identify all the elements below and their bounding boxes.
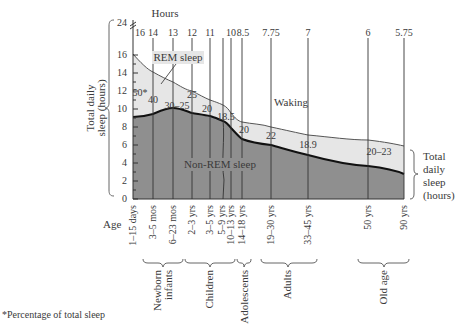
non-rem-sleep-label: Non-REM sleep: [184, 158, 256, 170]
svg-text:50 yrs: 50 yrs: [362, 205, 373, 230]
svg-text:Adults: Adults: [281, 270, 293, 299]
svg-text:10–13 yrs: 10–13 yrs: [225, 205, 236, 245]
svg-text:12: 12: [117, 85, 127, 96]
svg-text:12: 12: [187, 27, 197, 38]
svg-text:6–23 mos: 6–23 mos: [167, 205, 178, 244]
svg-text:2–3 yrs: 2–3 yrs: [186, 205, 197, 235]
svg-text:10: 10: [226, 27, 236, 38]
svg-text:Total: Total: [423, 150, 445, 162]
svg-text:0: 0: [122, 193, 127, 204]
svg-text:14: 14: [148, 27, 158, 38]
svg-text:33–45 yrs: 33–45 yrs: [302, 205, 313, 245]
svg-text:sleep: sleep: [423, 176, 446, 188]
y-tick-labels: 24 16 14 12 10 8 6 4 2 0: [117, 17, 127, 204]
svg-text:11: 11: [205, 27, 215, 38]
svg-text:4: 4: [122, 157, 127, 168]
footnote: *Percentage of total sleep: [2, 309, 105, 320]
svg-text:infants: infants: [162, 270, 174, 300]
svg-text:10: 10: [117, 103, 127, 114]
age-group-labels: Newborn infants Children Adolescents Adu…: [151, 270, 389, 324]
sleep-chart: 24 16 14 12 10 8 6 4 2 0 Total daily sle…: [0, 0, 465, 331]
svg-text:7.75: 7.75: [262, 27, 280, 38]
svg-text:25: 25: [187, 89, 197, 100]
svg-text:1–15 days: 1–15 days: [127, 205, 138, 246]
svg-text:90 yrs: 90 yrs: [398, 205, 409, 230]
svg-text:(hours): (hours): [423, 189, 455, 202]
y-axis-label-line2: sleep (hours): [95, 79, 108, 136]
svg-text:20: 20: [239, 124, 249, 135]
waking-label: Waking: [274, 96, 308, 108]
right-brace: [410, 150, 418, 199]
right-axis-label: Total daily sleep (hours): [423, 150, 455, 202]
svg-text:daily: daily: [423, 163, 445, 175]
svg-text:14–18 yrs: 14–18 yrs: [236, 205, 247, 245]
svg-text:6: 6: [366, 27, 371, 38]
svg-text:Children: Children: [203, 270, 215, 309]
svg-text:40: 40: [148, 94, 158, 105]
svg-text:22: 22: [266, 130, 276, 141]
svg-text:7: 7: [306, 27, 311, 38]
svg-text:8.5: 8.5: [237, 27, 250, 38]
age-label: Age: [103, 218, 121, 230]
svg-text:Old age: Old age: [377, 270, 389, 305]
svg-text:Adolescents: Adolescents: [238, 270, 250, 324]
total-hours-labels: 16 14 13 12 11 10 8.5 7.75 7 6 5.75: [135, 27, 413, 38]
svg-text:20–23: 20–23: [367, 146, 392, 157]
svg-text:8: 8: [122, 121, 127, 132]
svg-text:3–5 yrs: 3–5 yrs: [204, 205, 215, 235]
svg-text:16: 16: [117, 49, 127, 60]
svg-text:14: 14: [117, 67, 127, 78]
svg-text:50*: 50*: [133, 87, 148, 98]
svg-text:18.5: 18.5: [217, 111, 235, 122]
age-category-labels: 1–15 days 3–5 mos 6–23 mos 2–3 yrs 3–5 y…: [127, 205, 409, 246]
svg-text:20: 20: [202, 103, 212, 114]
group-braces: [143, 259, 409, 267]
svg-text:6: 6: [122, 139, 127, 150]
rem-sleep-label: REM sleep: [153, 51, 203, 63]
svg-text:2: 2: [122, 175, 127, 186]
svg-text:3–5 mos: 3–5 mos: [147, 205, 158, 239]
hours-label: Hours: [152, 7, 179, 19]
svg-text:16: 16: [135, 27, 145, 38]
svg-text:24: 24: [117, 17, 127, 28]
svg-text:5.75: 5.75: [395, 27, 413, 38]
svg-text:13: 13: [168, 27, 178, 38]
svg-text:30–25: 30–25: [165, 100, 190, 111]
svg-text:18.9: 18.9: [299, 139, 317, 150]
svg-text:19–30 yrs: 19–30 yrs: [265, 205, 276, 245]
